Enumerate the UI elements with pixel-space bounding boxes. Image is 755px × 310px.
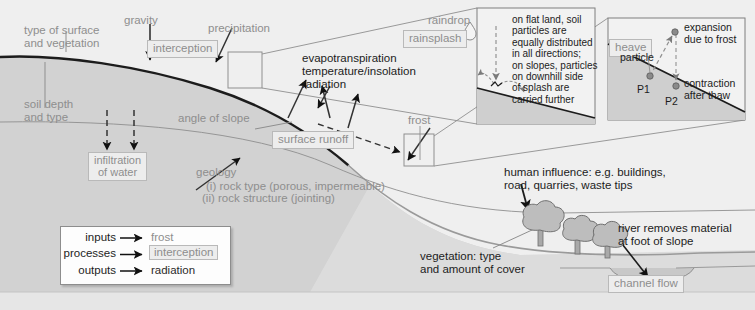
frost-inset-p1: P1: [637, 84, 650, 96]
legend-term-processes: processes: [61, 247, 116, 259]
label-surface-runoff: surface runoff: [272, 131, 354, 149]
label-geology: geology: [196, 166, 236, 179]
label-angle-of-slope: angle of slope: [178, 112, 250, 125]
label-human-influence: human influence: e.g. buildings, road, q…: [504, 166, 666, 192]
legend-example-processes: interception: [149, 245, 218, 260]
label-rainsplash: rainsplash: [403, 30, 467, 48]
label-raindrop: raindrop: [428, 14, 470, 27]
frost-inset-contraction: contraction after thaw: [684, 78, 735, 102]
label-soil-depth: soil depth and type: [24, 98, 73, 124]
legend-panel: inputs frost processes interception outp…: [60, 226, 231, 285]
label-geology-rock-structure: (ii) rock structure (jointing): [202, 192, 335, 205]
rainsplash-inset-note: on flat land, soil particles are equally…: [512, 14, 598, 105]
label-infiltration: infiltration of water: [88, 152, 147, 181]
frost-inset-p2: P2: [665, 96, 678, 108]
frost-inset-expansion: expansion due to frost: [684, 22, 737, 46]
label-river-removes-material: river removes material at foot of slope: [618, 222, 732, 248]
label-interception: interception: [147, 40, 218, 58]
legend-example-inputs: frost: [151, 231, 173, 243]
diagram-canvas: type of surface and vegetation gravity i…: [0, 0, 755, 310]
label-geology-rock-type: (i) rock type (porous, impermeable): [206, 180, 385, 193]
label-precipitation: precipitation: [208, 22, 270, 35]
label-evapotranspiration: evapotranspiration temperature/insolatio…: [302, 52, 416, 91]
label-channel-flow: channel flow: [608, 275, 684, 293]
slope-system-diagram: type of surface and vegetation gravity i…: [0, 0, 755, 310]
label-vegetation: vegetation: type and amount of cover: [420, 250, 525, 276]
legend-term-inputs: inputs: [61, 231, 116, 243]
label-frost: frost: [408, 114, 430, 127]
label-gravity: gravity: [124, 14, 158, 27]
frost-inset-particle: particle: [620, 52, 654, 64]
legend-example-outputs: radiation: [151, 264, 195, 276]
legend-term-outputs: outputs: [61, 264, 116, 276]
label-type-of-surface: type of surface and vegetation: [24, 24, 99, 50]
